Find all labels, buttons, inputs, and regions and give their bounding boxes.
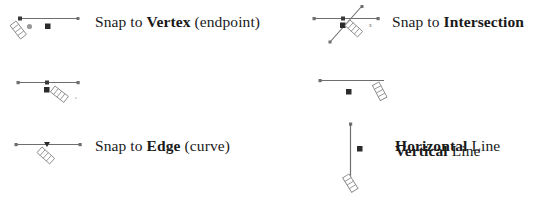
snap-vertex-label-suffix: (endpoint): [191, 13, 261, 30]
vertical-line-label: Vertical Line: [395, 143, 481, 159]
snap-cursor-glyph: [37, 147, 55, 164]
legend-row-horizontal-line: Horizontal Line: [300, 62, 544, 122]
snap-intersection-label-emphasis: Intersection: [444, 13, 524, 30]
snap-cursor-glyph: [10, 21, 26, 39]
snap-cursor-glyph: [345, 20, 363, 37]
vertical-line-icon: [300, 118, 395, 203]
snap-cursor-glyph: [372, 82, 387, 101]
snap-vertex-label: Snap to Vertex (endpoint): [95, 14, 260, 30]
snap-cursor-glyph: [50, 86, 68, 102]
snap-edge-icon: e: [0, 62, 100, 122]
legend-row-vertical-line: Vertical Line: [300, 118, 544, 203]
legend-row-snap-midpoint: Snap to Mid-point: [0, 124, 280, 184]
horizontal-line-icon: [300, 62, 395, 122]
snap-vertex-label-emphasis: Vertex: [147, 13, 191, 30]
vertical-line-label-emphasis: Vertical: [395, 142, 448, 159]
legend-row-snap-vertex: Snap to Vertex (endpoint): [0, 0, 280, 60]
intersection-cursor-mark: x: [369, 22, 372, 28]
snap-midpoint-icon: [0, 124, 100, 184]
legend-row-snap-intersection: x Snap to Intersection: [300, 0, 544, 60]
snap-vertex-label-prefix: Snap to: [95, 13, 147, 30]
snap-vertex-icon: [0, 0, 100, 60]
snap-intersection-label: Snap to Intersection: [392, 14, 524, 30]
snap-cursor-glyph: [343, 174, 358, 192]
snap-intersection-label-prefix: Snap to: [392, 13, 444, 30]
legend-row-snap-edge: e Snap to Edge (curve): [0, 62, 280, 122]
snap-intersection-icon: x: [300, 0, 395, 60]
vertical-line-label-suffix: Line: [448, 142, 481, 159]
edge-cursor-mark: e: [75, 95, 78, 100]
